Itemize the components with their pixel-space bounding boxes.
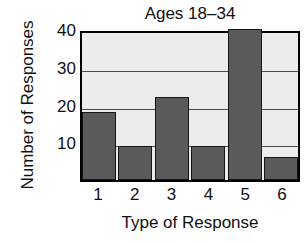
y-axis-tick-label: 30 (34, 59, 76, 79)
bar-series (82, 33, 298, 180)
bar-category-3 (155, 97, 189, 180)
x-axis-tick-label: 3 (154, 185, 190, 209)
bar-category-2 (118, 146, 152, 180)
x-axis-tick-label: 5 (227, 185, 263, 209)
bar-chart-figure: Ages 18–34 Number of Responses 10203040 … (0, 0, 307, 244)
x-axis-tick-labels: 123456 (80, 185, 300, 209)
y-axis-tick-label: 10 (34, 134, 76, 154)
bar-category-5 (228, 29, 262, 180)
chart-title: Ages 18–34 (80, 4, 300, 24)
x-axis-tick-label: 1 (80, 185, 116, 209)
bar-category-6 (264, 157, 298, 180)
bar-category-4 (191, 146, 225, 180)
y-axis-tick-label: 20 (34, 97, 76, 117)
bar-category-1 (82, 112, 116, 180)
x-axis-tick-label: 2 (117, 185, 153, 209)
y-axis-tick-label: 40 (34, 21, 76, 41)
x-axis-tick-label: 4 (190, 185, 226, 209)
plot-area (80, 31, 300, 182)
x-axis-label: Type of Response (80, 213, 300, 233)
x-axis-tick-label: 6 (264, 185, 300, 209)
y-axis-tick-labels: 10203040 (30, 0, 76, 244)
